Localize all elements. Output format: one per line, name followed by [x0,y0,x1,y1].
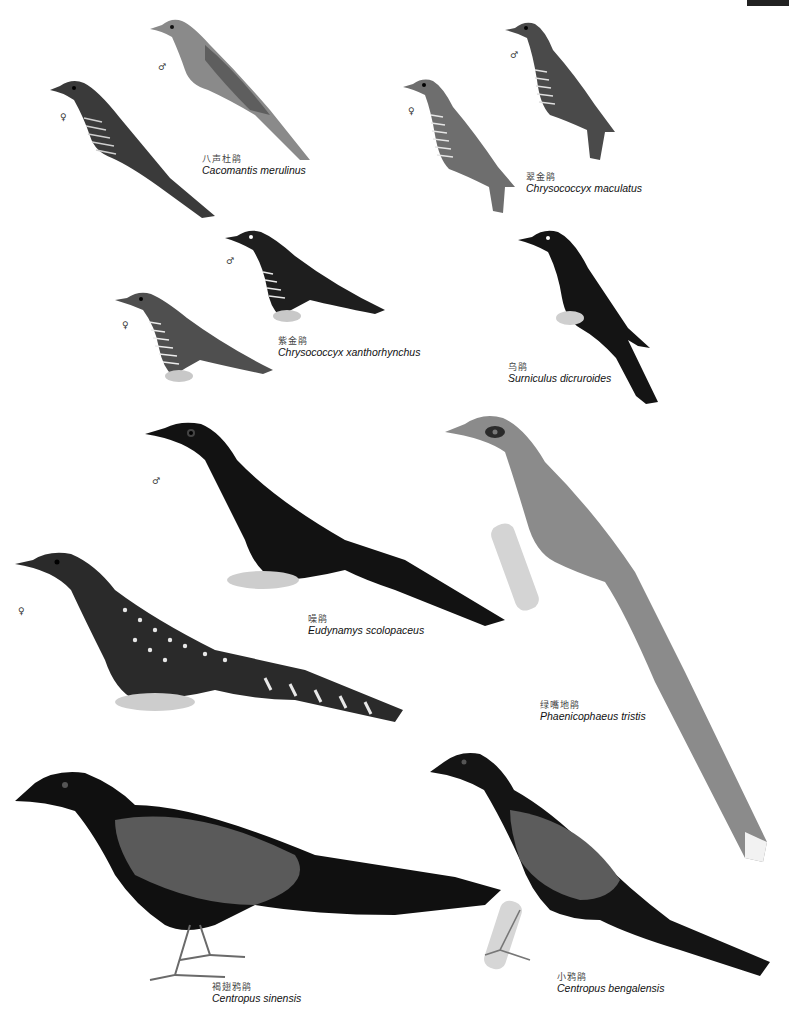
bird-maculatus-female [403,75,518,215]
chinese-name: 褐翅鸦鹃 [212,982,301,992]
sex-symbol-male: ♂ [226,256,234,266]
bird-cacomantis-female [50,78,220,220]
sex-symbol-female: ♀ [122,320,129,330]
sex-symbol-female: ♀ [18,606,25,616]
species-label-centropus-sinensis: 褐翅鸦鹃 Centropus sinensis [212,982,301,1004]
scientific-name: Centropus bengalensis [557,982,664,994]
chinese-name: 绿嘴地鹃 [540,700,646,710]
species-label-centropus-bengalensis: 小鸦鹃 Centropus bengalensis [557,972,664,994]
chinese-name: 噪鹃 [308,614,424,624]
scientific-name: Chrysococcyx maculatus [526,182,642,194]
sex-symbol-female: ♀ [408,106,415,116]
scientific-name: Surniculus dicruroides [508,372,611,384]
chinese-name: 小鸦鹃 [557,972,664,982]
scientific-name: Phaenicophaeus tristis [540,710,646,722]
chinese-name: 紫金鹃 [278,336,420,346]
chinese-name: 翠金鹃 [526,172,642,182]
species-label-surniculus: 乌鹃 Surniculus dicruroides [508,362,611,384]
scientific-name: Cacomantis merulinus [202,164,306,176]
species-label-eudynamys: 噪鹃 Eudynamys scolopaceus [308,614,424,636]
scientific-name: Centropus sinensis [212,992,301,1004]
sex-symbol-male: ♂ [510,50,518,60]
species-label-phaenicophaeus: 绿嘴地鹃 Phaenicophaeus tristis [540,700,646,722]
sex-symbol-male: ♂ [158,62,166,72]
bird-centropus-bengalensis [430,750,775,980]
bird-plate: ♂ ♀ 八声杜鹃 Cacomantis merulinus ♂ ♀ 翠金鹃 Ch… [0,0,795,1026]
chinese-name: 乌鹃 [508,362,611,372]
species-label-xanthorhynchus: 紫金鹃 Chrysococcyx xanthorhynchus [278,336,420,358]
scientific-name: Eudynamys scolopaceus [308,624,424,636]
scientific-name: Chrysococcyx xanthorhynchus [278,346,420,358]
bird-maculatus-male [505,20,620,162]
species-label-maculatus: 翠金鹃 Chrysococcyx maculatus [526,172,642,194]
page-corner-mark [747,0,789,6]
species-label-cacomantis: 八声杜鹃 Cacomantis merulinus [202,154,306,176]
bird-xanthorhynchus-female [115,290,280,385]
bird-eudynamys-female [15,550,405,730]
sex-symbol-female: ♀ [60,112,67,122]
chinese-name: 八声杜鹃 [202,154,306,164]
sex-symbol-male: ♂ [152,476,160,486]
